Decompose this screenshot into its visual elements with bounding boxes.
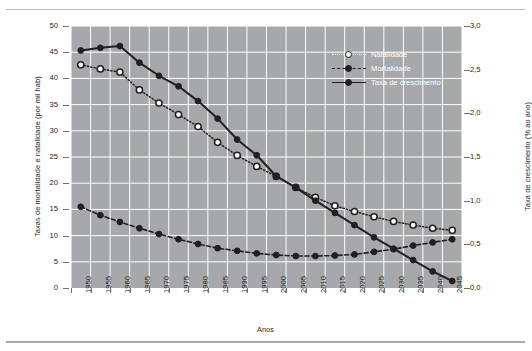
y-axis-left-tick [63, 78, 69, 79]
x-axis-tick-label: 1975 [182, 276, 191, 293]
legend-item-mortalidade: Mortalidade [332, 61, 441, 75]
y-axis-left-tick-label: 45 [50, 47, 58, 56]
x-axis-tick [169, 288, 170, 293]
legend-swatch-natalidade [332, 49, 366, 60]
y-axis-left-tick-label: 15 [50, 204, 58, 213]
x-axis-tick-label: 1950 [84, 276, 93, 293]
y-axis-left-tick-label: 5 [54, 257, 58, 266]
y-axis-left-tick-label: 20 [50, 178, 58, 187]
x-axis-tick-label: 1985 [221, 276, 230, 293]
y-axis-right-tick-label: 0,0 [470, 283, 481, 292]
x-axis-tick [325, 288, 326, 293]
x-axis-tick-label: 2000 [279, 276, 288, 293]
x-axis-tick-label: 2005 [299, 276, 308, 293]
x-axis-tick [71, 288, 72, 293]
legend-swatch-taxa-crescimento [332, 77, 366, 88]
y-axis-left-tick-label: 40 [50, 73, 58, 82]
y-axis-left-title: Taxas de mortalidade e natalidade (por m… [33, 67, 42, 247]
x-axis-tick [364, 288, 365, 293]
x-axis-tick [227, 288, 228, 293]
x-axis-tick [130, 288, 131, 293]
x-axis-tick [110, 288, 111, 293]
chart-legend: Natalidade Mortalidade Taxa de crescimen… [332, 47, 441, 89]
x-axis-tick [442, 288, 443, 293]
x-axis-tick [345, 288, 346, 293]
bottom-divider-rule [6, 341, 525, 343]
x-axis-tick [306, 288, 307, 293]
x-axis-tick [267, 288, 268, 293]
y-axis-left-tick [63, 288, 69, 289]
y-axis-left-tick [63, 131, 69, 132]
legend-label-natalidade: Natalidade [371, 50, 407, 59]
legend-item-taxa-crescimento: Taxa de crescimento [332, 75, 441, 89]
y-axis-right-tick-label: 3,0 [470, 21, 481, 30]
x-axis-tick-label: 1990 [240, 276, 249, 293]
y-axis-left-tick [63, 26, 69, 27]
x-axis-tick [423, 288, 424, 293]
legend-swatch-mortalidade [332, 63, 366, 74]
x-axis-tick-label: 2045 [455, 276, 464, 293]
x-axis-tick-label: 1955 [104, 276, 113, 293]
y-axis-left-tick [63, 157, 69, 158]
top-divider-rule [6, 9, 525, 10]
y-axis-left-tick [63, 209, 69, 210]
x-axis-tick [286, 288, 287, 293]
x-axis-tick [208, 288, 209, 293]
legend-label-taxa-crescimento: Taxa de crescimento [371, 78, 441, 87]
x-axis-tick-label: 1980 [201, 276, 210, 293]
y-axis-left-tick-label: 50 [50, 21, 58, 30]
x-axis-tick [384, 288, 385, 293]
y-axis-left-tick-label: 0 [54, 283, 58, 292]
y-axis-right-title: Taxa de crescimento (% ao ano) [523, 67, 532, 247]
y-axis-left-tick [63, 52, 69, 53]
x-axis-tick-label: 2025 [377, 276, 386, 293]
y-axis-left-tick [63, 183, 69, 184]
x-axis-tick-label: 2040 [436, 276, 445, 293]
y-axis-left-tick [63, 105, 69, 106]
x-axis-tick-label: 2035 [416, 276, 425, 293]
y-axis-left-tick-label: 25 [50, 152, 58, 161]
x-axis-tick [403, 288, 404, 293]
x-axis-tick [247, 288, 248, 293]
y-axis-left-tick-label: 30 [50, 126, 58, 135]
legend-item-natalidade: Natalidade [332, 47, 441, 61]
x-axis-title: Anos [0, 325, 531, 334]
x-axis-tick-label: 2030 [397, 276, 406, 293]
x-axis-tick-label: 1995 [260, 276, 269, 293]
x-axis-tick-label: 1965 [143, 276, 152, 293]
y-axis-right-tick-label: 1,0 [470, 196, 481, 205]
y-axis-right-tick-label: 2,5 [470, 65, 481, 74]
x-axis-tick-label: 1960 [123, 276, 132, 293]
x-axis-tick [149, 288, 150, 293]
y-axis-right-tick-label: 1,5 [470, 152, 481, 161]
y-axis-left-tick-label: 35 [50, 100, 58, 109]
x-axis-tick-label: 2020 [358, 276, 367, 293]
y-axis-left-tick [63, 262, 69, 263]
x-axis-tick-label: 1970 [162, 276, 171, 293]
y-axis-left-tick [63, 236, 69, 237]
y-axis-right-tick-label: 0,5 [470, 239, 481, 248]
x-axis-tick-label: 2010 [319, 276, 328, 293]
x-axis-tick [188, 288, 189, 293]
x-axis-tick [91, 288, 92, 293]
legend-label-mortalidade: Mortalidade [371, 64, 411, 73]
x-axis-tick-label: 2015 [338, 276, 347, 293]
y-axis-right-tick-label: 2,0 [470, 108, 481, 117]
y-axis-left-tick-label: 10 [50, 231, 58, 240]
